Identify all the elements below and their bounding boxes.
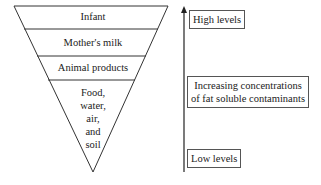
level-environment-line: and [60,125,126,138]
level-mothers-milk: Mother's milk [40,36,146,49]
arrow-head-icon [181,6,187,13]
level-environment-line: air, [60,112,126,125]
level-animal-products: Animal products [40,61,146,74]
high-levels-label: High levels [189,10,245,29]
low-levels-label: Low levels [187,149,241,168]
level-environment-line: Food, [60,86,126,99]
increasing-concentrations-label: Increasing concentrations of fat soluble… [187,76,309,108]
level-environment-line: water, [60,99,126,112]
level-environment: Food, water, air, and soil [60,86,126,151]
level-environment-line: soil [60,138,126,151]
level-infant: Infant [40,10,146,23]
increasing-line: Increasing concentrations [191,79,305,92]
increasing-line: of fat soluble contaminants [191,92,305,105]
